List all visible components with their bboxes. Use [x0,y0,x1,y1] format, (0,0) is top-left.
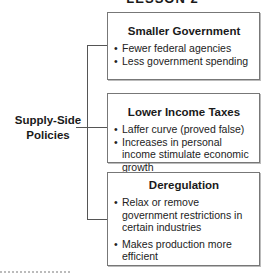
branch-list: Relax or remove government restrictions … [113,196,255,263]
connector-branch-1 [87,45,107,46]
branch-list: Laffer curve (proved false) Increases in… [113,123,255,173]
branch-box-smaller-government: Smaller Government Fewer federal agencie… [107,12,260,80]
branch-box-deregulation: Deregulation Relax or remove government … [107,172,260,266]
connector-branch-2 [87,127,107,128]
branch-list-item: Increases in personal income stimulate e… [113,136,255,174]
connector-trunk [87,45,88,220]
branch-title: Lower Income Taxes [113,105,255,119]
branch-list-item: Less government spending [113,55,255,68]
branch-list-item: Laffer curve (proved false) [113,123,255,136]
connector-root [76,127,87,128]
branch-box-lower-income-taxes: Lower Income Taxes Laffer curve (proved … [107,93,260,163]
branch-list-item: Makes production more efficient [113,238,255,263]
branch-title: Smaller Government [113,24,255,38]
connector-branch-3 [87,219,107,220]
root-node-label: Supply-Side Policies [6,113,90,143]
branch-title: Deregulation [113,178,255,192]
dotted-divider [0,271,72,273]
branch-list-item: Fewer federal agencies [113,42,255,55]
branch-list: Fewer federal agencies Less government s… [113,42,255,67]
lesson-header: LESSON 2 [0,0,270,6]
branch-list-item: Relax or remove government restrictions … [113,196,255,234]
